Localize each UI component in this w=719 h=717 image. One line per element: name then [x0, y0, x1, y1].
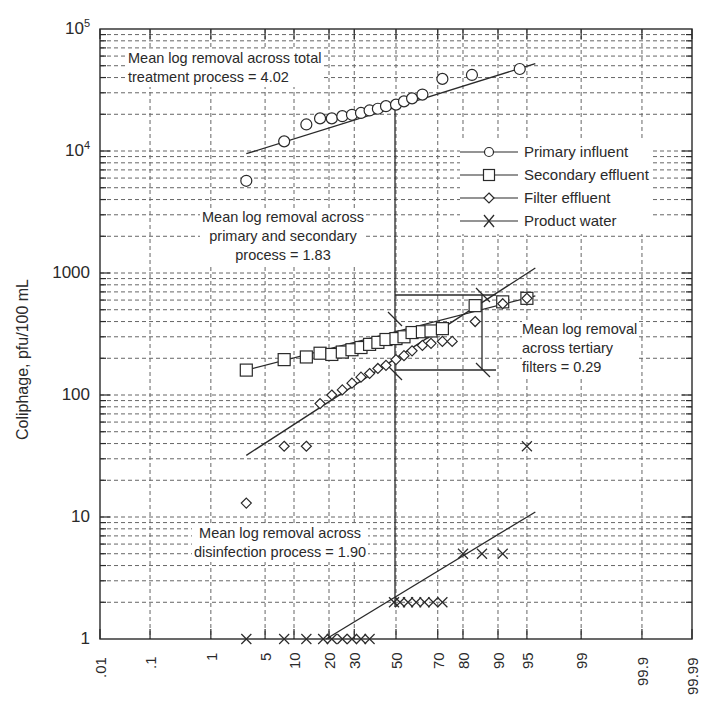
x-tick-label: .01	[92, 657, 109, 678]
diamond-marker	[315, 399, 325, 409]
diamond-marker	[241, 498, 251, 508]
circle-marker	[315, 113, 326, 124]
diamond-marker	[417, 340, 427, 350]
circle-marker	[437, 73, 448, 84]
diamond-marker	[327, 390, 337, 400]
diamond-marker	[347, 378, 357, 388]
annotation-tertiary-removal: Mean log removal across tertiary filters…	[522, 320, 637, 377]
square-marker	[300, 351, 312, 363]
legend-item-secondary-effluent: Secondary effluent	[460, 163, 649, 186]
square-marker	[425, 325, 437, 337]
x-tick-label: 30	[346, 653, 363, 670]
diamond-marker	[337, 385, 347, 395]
legend: Primary influent Secondary effluent Filt…	[460, 138, 653, 234]
circle-marker	[241, 175, 252, 186]
y-axis-title: Coliphage, pfu/100 mL	[14, 279, 32, 440]
annotation-disinfection-removal: Mean log removal across disinfection pro…	[192, 524, 368, 562]
x-tick-label: 99.99	[684, 657, 701, 695]
legend-item-primary-influent: Primary influent	[460, 140, 649, 163]
circle-marker	[279, 136, 290, 147]
diamond-marker	[407, 346, 417, 356]
circle-marker	[407, 93, 418, 104]
diamond-marker	[447, 336, 457, 346]
x-tick-label: 50	[388, 653, 405, 670]
legend-item-filter-effluent: Filter effluent	[460, 186, 649, 209]
y-tick-1000: 1000	[30, 263, 90, 283]
x-tick-label: 90	[490, 653, 507, 670]
circle-marker	[326, 113, 337, 124]
annotation-primary-secondary-removal: Mean log removal across primary and seco…	[200, 208, 366, 265]
diamond-marker	[279, 441, 289, 451]
circle-marker	[301, 119, 312, 130]
square-marker	[469, 300, 481, 312]
circle-marker	[514, 64, 525, 75]
annotation-total-removal: Mean log removal across total treatment …	[128, 49, 321, 87]
diamond-marker	[437, 336, 447, 346]
y-tick-100: 100	[30, 385, 90, 405]
circle-marker	[417, 89, 428, 100]
x-tick-label: 1	[203, 652, 220, 660]
square-marker	[436, 323, 448, 335]
y-tick-10: 10	[30, 507, 90, 527]
y-tick-1e5: 105	[30, 17, 90, 39]
circle-marker	[380, 101, 391, 112]
diamond-marker	[426, 338, 436, 348]
diamond-marker-icon	[460, 188, 518, 208]
circle-marker-icon	[460, 142, 518, 162]
x-tick-label: 99.9	[634, 657, 651, 686]
x-tick-label: 70	[430, 653, 447, 670]
x-tick-label: 95	[519, 653, 536, 670]
square-marker	[314, 347, 326, 359]
square-marker	[278, 354, 290, 366]
x-tick-label: 99	[573, 653, 590, 670]
circle-marker	[466, 69, 477, 80]
diamond-marker	[301, 441, 311, 451]
square-marker-icon	[460, 165, 518, 185]
x-tick-label: 80	[455, 653, 472, 670]
diamond-marker	[470, 317, 480, 327]
y-tick-1: 1	[30, 629, 90, 649]
x-tick-label: 10	[286, 653, 303, 670]
y-tick-1e4: 104	[30, 139, 90, 161]
legend-item-product-water: Product water	[460, 209, 649, 232]
x-tick-label: .1	[142, 657, 159, 670]
square-marker	[240, 364, 252, 376]
x-tick-label: 20	[321, 653, 338, 670]
x-tick-label: 5	[257, 652, 274, 660]
x-marker-icon	[460, 211, 518, 231]
